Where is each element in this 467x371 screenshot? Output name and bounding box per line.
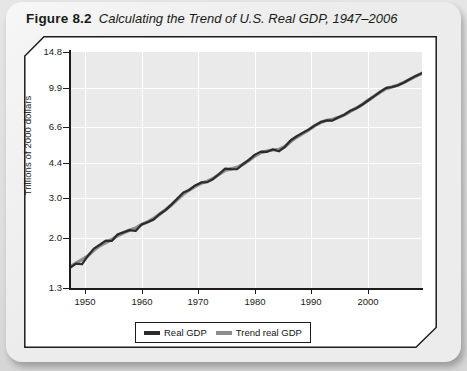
trend-real-gdp-line bbox=[70, 73, 422, 266]
data-series-layer bbox=[70, 52, 422, 288]
legend-label-real-gdp: Real GDP bbox=[164, 327, 207, 338]
x-tick-1970 bbox=[198, 288, 199, 294]
y-tick-label-6-6: 6.6 bbox=[28, 121, 62, 132]
y-tick-2-0 bbox=[63, 238, 70, 239]
x-tick-label-1970: 1970 bbox=[176, 296, 220, 307]
legend-item-trend-real-gdp: Trend real GDP bbox=[216, 327, 302, 338]
y-tick-9-9 bbox=[63, 88, 70, 89]
y-tick-label-9-9: 9.9 bbox=[28, 82, 62, 93]
x-tick-1950 bbox=[85, 288, 86, 294]
real-gdp-line bbox=[70, 73, 422, 268]
x-axis-line bbox=[69, 288, 423, 290]
y-tick-3-0 bbox=[63, 198, 70, 199]
y-tick-1-3 bbox=[63, 288, 70, 289]
y-tick-label-1-3: 1.3 bbox=[28, 282, 62, 293]
legend-swatch-real-gdp bbox=[144, 331, 160, 335]
y-axis-title: Trillions of 2000 dollars bbox=[22, 71, 33, 221]
legend-label-trend-real-gdp: Trend real GDP bbox=[236, 327, 302, 338]
y-tick-14-8 bbox=[63, 52, 70, 53]
y-tick-label-14-8: 14.8 bbox=[28, 46, 62, 57]
x-tick-2000 bbox=[368, 288, 369, 294]
y-tick-label-4-4: 4.4 bbox=[28, 157, 62, 168]
x-tick-label-2000: 2000 bbox=[346, 296, 390, 307]
y-tick-label-2-0: 2.0 bbox=[28, 232, 62, 243]
y-tick-label-3-0: 3.0 bbox=[28, 192, 62, 203]
x-tick-1980 bbox=[255, 288, 256, 294]
chart-plot: 14.8 9.9 6.6 4.4 3.0 2.0 1.3 Trillions o… bbox=[0, 0, 467, 371]
y-tick-4-4 bbox=[63, 163, 70, 164]
legend-swatch-trend-real-gdp bbox=[216, 331, 232, 335]
x-tick-label-1960: 1960 bbox=[120, 296, 164, 307]
x-tick-label-1990: 1990 bbox=[289, 296, 333, 307]
x-tick-label-1980: 1980 bbox=[233, 296, 277, 307]
y-tick-6-6 bbox=[63, 127, 70, 128]
chart-legend: Real GDP Trend real GDP bbox=[135, 322, 311, 343]
x-tick-label-1950: 1950 bbox=[63, 296, 107, 307]
x-tick-1960 bbox=[142, 288, 143, 294]
legend-item-real-gdp: Real GDP bbox=[144, 327, 207, 338]
y-axis-line bbox=[69, 50, 71, 290]
x-tick-1990 bbox=[311, 288, 312, 294]
